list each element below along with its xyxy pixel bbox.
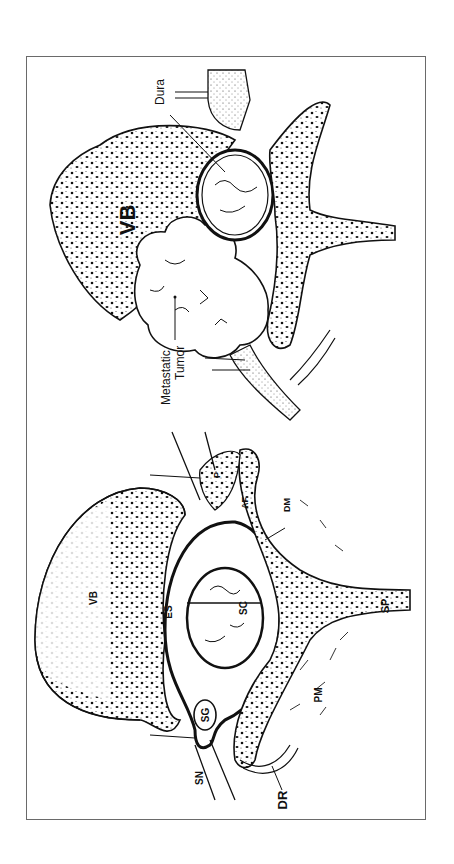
label-dr: DR bbox=[275, 790, 290, 809]
pedicle bbox=[200, 451, 240, 510]
posterior-arch-top bbox=[267, 102, 395, 348]
nerve-root-lower bbox=[230, 345, 300, 420]
label-sg: SG bbox=[200, 708, 211, 723]
label-vb-bottom: VB bbox=[88, 591, 99, 605]
label-sc: SC bbox=[238, 601, 249, 615]
panel-normal: VB SC ES SG SN DR PM SP DM P AF bbox=[35, 432, 410, 809]
nerve-root-upper bbox=[208, 70, 250, 130]
spinal-nerve bbox=[195, 740, 235, 800]
label-sp: SP bbox=[379, 599, 391, 614]
label-dm: DM bbox=[282, 498, 292, 512]
label-pm: PM bbox=[313, 688, 324, 703]
spinal-cord bbox=[187, 568, 263, 668]
panel-metastatic: VB Dura Metastatic Tumor bbox=[50, 70, 395, 420]
label-vb-top: VB bbox=[115, 205, 140, 236]
label-p: P bbox=[212, 472, 222, 478]
label-dura: Dura bbox=[153, 79, 167, 105]
label-af: AF bbox=[240, 497, 250, 509]
label-es: ES bbox=[163, 605, 174, 619]
spine-cross-section-figure: VB Dura Metastatic Tumor VB SC bbox=[0, 0, 454, 864]
label-metastatic: Metastatic bbox=[159, 350, 173, 405]
label-tumor: Tumor bbox=[173, 346, 187, 380]
label-sn: SN bbox=[194, 771, 205, 785]
